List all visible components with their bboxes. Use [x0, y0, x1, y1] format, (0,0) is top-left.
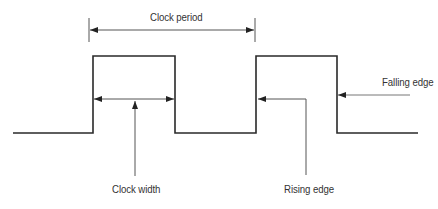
- falling-edge-label: Falling edge: [382, 76, 434, 88]
- clock-period-label: Clock period: [150, 11, 203, 23]
- rising-edge-pointer-line: [258, 99, 306, 175]
- clock-width-label: Clock width: [112, 183, 160, 195]
- rising-edge-label: Rising edge: [284, 183, 334, 195]
- clock-waveform-diagram: [0, 0, 438, 209]
